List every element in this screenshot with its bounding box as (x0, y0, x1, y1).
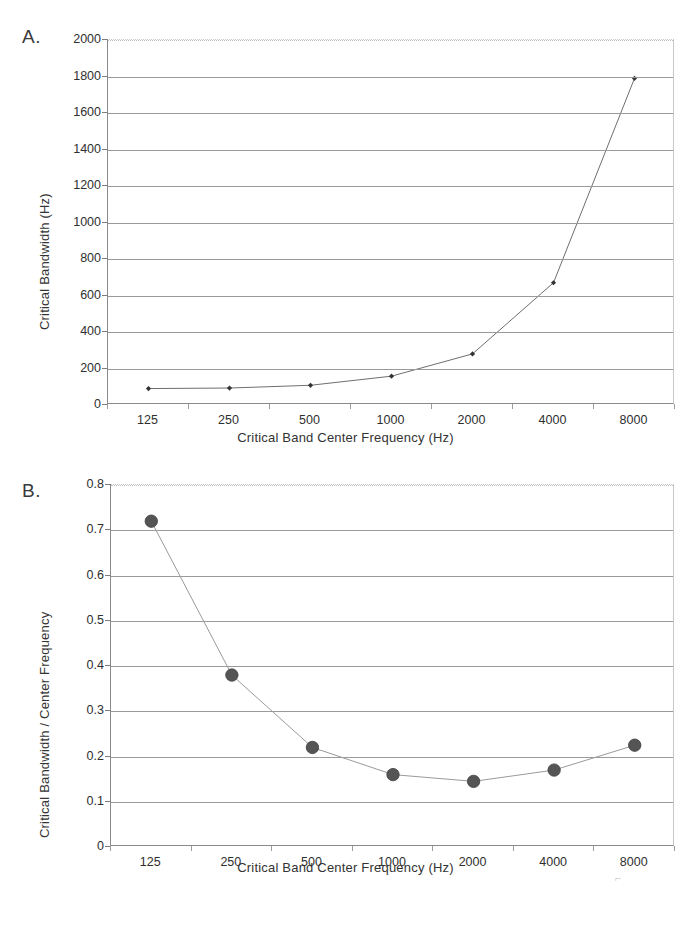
y-tick-label: 0.1 (64, 794, 104, 808)
x-tick-mark (188, 404, 189, 409)
x-tick-mark (271, 846, 272, 851)
y-tick-label: 0.6 (64, 568, 104, 582)
gridline (108, 223, 673, 224)
gridline (108, 186, 673, 187)
y-tick-mark (102, 295, 108, 296)
y-tick-label: 400 (61, 324, 101, 338)
y-tick-mark (102, 112, 108, 113)
data-point-marker (227, 385, 232, 390)
panel-a-x-axis-title: Critical Band Center Frequency (Hz) (0, 430, 691, 445)
gridline (108, 296, 673, 297)
data-line (151, 521, 634, 781)
x-tick-mark (674, 846, 675, 851)
x-tick-mark (674, 404, 675, 409)
data-line (149, 78, 635, 388)
x-tick-label: 8000 (620, 413, 648, 427)
x-tick-label: 500 (301, 855, 322, 869)
y-tick-label: 0.7 (64, 522, 104, 536)
data-point-marker (629, 739, 641, 751)
y-tick-label: 1200 (61, 178, 101, 192)
x-tick-label: 2000 (458, 413, 486, 427)
y-tick-mark (102, 222, 108, 223)
x-tick-mark (513, 846, 514, 851)
data-point-marker (226, 669, 238, 681)
x-tick-mark (593, 404, 594, 409)
data-point-marker (306, 741, 318, 753)
x-tick-label: 250 (220, 855, 241, 869)
gridline (111, 621, 673, 622)
y-tick-label: 0.5 (64, 613, 104, 627)
x-tick-label: 125 (137, 413, 158, 427)
gridline (108, 369, 673, 370)
y-tick-label: 0.3 (64, 703, 104, 717)
panel-b-letter: B. (22, 480, 41, 502)
gridline (108, 150, 673, 151)
gridline (111, 757, 673, 758)
gridline (111, 711, 673, 712)
x-tick-label: 250 (218, 413, 239, 427)
y-tick-mark (102, 76, 108, 77)
y-tick-label: 2000 (61, 32, 101, 46)
gridline (111, 576, 673, 577)
x-tick-label: 4000 (539, 855, 567, 869)
y-tick-mark (102, 39, 108, 40)
panel-b-plot-area (110, 484, 674, 846)
y-tick-mark (102, 368, 108, 369)
x-tick-label: 500 (299, 413, 320, 427)
y-tick-label: 0 (64, 839, 104, 853)
x-tick-mark (352, 846, 353, 851)
panel-a-y-axis-title: Critical Bandwidth (Hz) (37, 193, 52, 330)
y-tick-label: 1000 (61, 215, 101, 229)
x-tick-label: 125 (140, 855, 161, 869)
y-tick-label: 1600 (61, 105, 101, 119)
y-tick-mark (105, 665, 111, 666)
y-tick-mark (105, 529, 111, 530)
y-tick-label: 1400 (61, 142, 101, 156)
y-tick-mark (105, 756, 111, 757)
y-tick-label: 1800 (61, 69, 101, 83)
data-point-marker (548, 764, 560, 776)
x-tick-mark (350, 404, 351, 409)
gridline (108, 259, 673, 260)
x-tick-label: 1000 (377, 413, 405, 427)
gridline (111, 802, 673, 803)
panel-b-y-axis-title: Critical Bandwidth / Center Frequency (37, 612, 52, 838)
data-point-marker (146, 386, 151, 391)
y-tick-label: 0.2 (64, 749, 104, 763)
gridline (111, 666, 673, 667)
x-tick-mark (269, 404, 270, 409)
y-tick-label: 200 (61, 361, 101, 375)
data-point-marker (467, 775, 479, 787)
y-tick-mark (102, 185, 108, 186)
y-tick-mark (105, 710, 111, 711)
x-tick-label: 4000 (539, 413, 567, 427)
x-tick-label: 1000 (378, 855, 406, 869)
gridline (111, 530, 673, 531)
y-tick-label: 0.4 (64, 658, 104, 672)
chart-panel-a: A. Critical Bandwidth (Hz) 2000180016001… (0, 0, 691, 460)
panel-b-x-axis-title: Critical Band Center Frequency (Hz) (0, 860, 691, 875)
y-tick-mark (102, 258, 108, 259)
x-tick-mark (191, 846, 192, 851)
gridline (108, 113, 673, 114)
stray-artifact-mark: ⌐ (615, 872, 621, 884)
x-tick-mark (110, 846, 111, 851)
y-tick-label: 800 (61, 251, 101, 265)
y-tick-label: 0.8 (64, 477, 104, 491)
y-tick-mark (102, 331, 108, 332)
panel-a-letter: A. (22, 26, 41, 48)
gridline (108, 332, 673, 333)
gridline (111, 485, 673, 486)
gridline (108, 77, 673, 78)
x-tick-mark (107, 404, 108, 409)
y-tick-label: 600 (61, 288, 101, 302)
y-tick-mark (105, 620, 111, 621)
y-tick-mark (105, 575, 111, 576)
x-tick-mark (512, 404, 513, 409)
y-tick-mark (105, 484, 111, 485)
data-point-marker (389, 374, 394, 379)
gridline (108, 40, 673, 41)
data-point-marker (387, 768, 399, 780)
x-tick-mark (432, 846, 433, 851)
y-tick-mark (105, 801, 111, 802)
